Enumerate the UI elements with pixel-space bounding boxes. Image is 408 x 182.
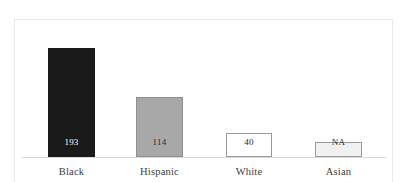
bar-hispanic: 114 [136,97,183,157]
bar-value-white: 40 [244,138,253,156]
category-label-asian: Asian [279,166,399,177]
bar-value-black: 193 [64,138,78,156]
bar-value-asian: NA [332,138,345,156]
category-axis-line [22,157,386,158]
bar-asian: NA [315,142,362,157]
bar-chart-plot-area: 193 Black 114 Hispanic 40 White NA Asian [0,0,408,182]
bar-black: 193 [48,48,95,157]
bar-value-hispanic: 114 [153,138,167,156]
bar-white: 40 [226,133,272,157]
